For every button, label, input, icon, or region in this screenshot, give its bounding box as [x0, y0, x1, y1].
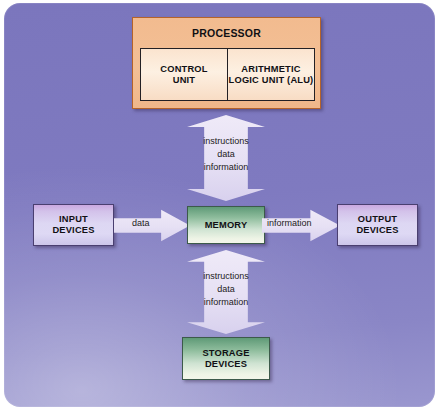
output-devices-label-line1: OUTPUT — [358, 214, 397, 224]
flow-label-data: data — [187, 283, 265, 296]
input-devices-label-line2: DEVICES — [52, 225, 94, 235]
alu-cell: ARITHMETIC LOGIC UNIT (ALU) — [228, 49, 314, 100]
flow-label-instructions: instructions — [187, 135, 265, 148]
diagram-panel: PROCESSOR CONTROL UNIT ARITHMETIC LOGIC … — [4, 3, 435, 407]
control-unit-label-line2: UNIT — [173, 75, 196, 85]
storage-devices-label-line1: STORAGE — [202, 348, 249, 358]
input-to-memory-label: data — [132, 218, 150, 228]
input-devices-box: INPUT DEVICES — [33, 204, 114, 246]
flow-label-information: information — [187, 296, 265, 309]
input-devices-label-line1: INPUT — [59, 214, 88, 224]
storage-devices-label-line2: DEVICES — [205, 359, 247, 369]
processor-title: PROCESSOR — [133, 27, 320, 39]
output-devices-label-line2: DEVICES — [356, 225, 398, 235]
memory-to-output-label: information — [267, 218, 312, 228]
input-to-memory-arrow — [114, 209, 190, 242]
flow-label-data: data — [187, 148, 265, 161]
control-unit-label-line1: CONTROL — [160, 64, 207, 74]
alu-label-line1: ARITHMETIC — [241, 64, 300, 74]
output-devices-box: OUTPUT DEVICES — [337, 204, 418, 246]
control-unit-cell: CONTROL UNIT — [141, 49, 228, 100]
processor-memory-flow-labels: instructions data information — [187, 135, 265, 173]
flow-label-instructions: instructions — [187, 270, 265, 283]
memory-storage-flow-labels: instructions data information — [187, 270, 265, 308]
storage-devices-box: STORAGE DEVICES — [182, 337, 270, 380]
diagram-canvas: PROCESSOR CONTROL UNIT ARITHMETIC LOGIC … — [0, 0, 439, 413]
alu-label-line2: LOGIC UNIT (ALU) — [229, 75, 314, 85]
processor-units-container: CONTROL UNIT ARITHMETIC LOGIC UNIT (ALU) — [140, 48, 315, 101]
processor-box: PROCESSOR CONTROL UNIT ARITHMETIC LOGIC … — [132, 17, 321, 109]
memory-box: MEMORY — [187, 206, 265, 244]
flow-label-information: information — [187, 161, 265, 174]
memory-label: MEMORY — [205, 220, 248, 231]
